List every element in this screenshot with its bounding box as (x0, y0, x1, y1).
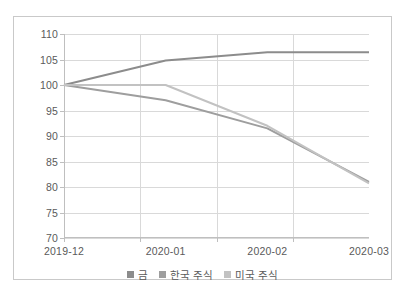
legend-swatch-icon-1 (159, 271, 166, 278)
legend-swatch-icon-2 (224, 271, 231, 278)
y-tick-label-70: 70 (16, 232, 58, 244)
x-tick-label-2020-03: 2020-03 (324, 245, 406, 257)
y-tickmark-95 (60, 111, 64, 112)
series-line-1 (64, 85, 369, 182)
y-tick-label-105: 105 (16, 54, 58, 66)
x-tickmark-2 (217, 238, 218, 242)
y-tick-label-80: 80 (16, 181, 58, 193)
legend-label-1: 한국 주식 (170, 267, 213, 282)
x-tickmark-0 (64, 238, 65, 242)
series-line-0 (64, 52, 369, 85)
series-lines (64, 34, 369, 238)
legend-label-0: 금 (138, 267, 148, 282)
chart-legend: 금한국 주식미국 주식 (14, 267, 391, 282)
y-tick-label-85: 85 (16, 156, 58, 168)
y-tickmark-75 (60, 213, 64, 214)
x-tickmark-1 (140, 238, 141, 242)
x-tick-label-2020-01: 2020-01 (121, 245, 211, 257)
y-tick-label-100: 100 (16, 79, 58, 91)
legend-entry-0[interactable]: 금 (127, 267, 148, 282)
y-tickmark-80 (60, 187, 64, 188)
legend-label-2: 미국 주식 (235, 267, 278, 282)
y-tickmark-105 (60, 60, 64, 61)
y-tick-label-110: 110 (16, 28, 58, 40)
y-tickmark-110 (60, 34, 64, 35)
y-tick-label-90: 90 (16, 130, 58, 142)
y-tickmark-90 (60, 136, 64, 137)
legend-entry-2[interactable]: 미국 주식 (224, 267, 278, 282)
legend-entry-1[interactable]: 한국 주식 (159, 267, 213, 282)
y-tickmark-85 (60, 162, 64, 163)
x-tickmark-3 (293, 238, 294, 242)
y-tick-label-75: 75 (16, 207, 58, 219)
x-axis-tick-labels: 2019-122020-012020-022020-03 (64, 245, 369, 261)
series-line-2 (64, 85, 369, 183)
plot-area (64, 34, 369, 238)
x-tick-label-2020-02: 2020-02 (222, 245, 312, 257)
chart-frame: 707580859095100105110 2019-122020-012020… (13, 16, 392, 280)
legend-swatch-icon-0 (127, 271, 134, 278)
y-tickmark-100 (60, 85, 64, 86)
y-tick-label-95: 95 (16, 105, 58, 117)
x-tick-label-2019-12: 2019-12 (19, 245, 109, 257)
y-axis-tick-labels: 707580859095100105110 (14, 34, 58, 238)
